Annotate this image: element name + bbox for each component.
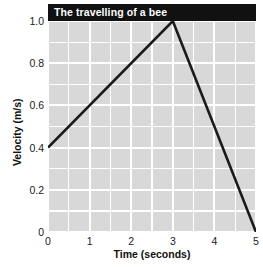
x-tick-label: 2 bbox=[128, 236, 134, 247]
x-axis-title: Time (seconds) bbox=[48, 249, 256, 260]
x-tick-label: 4 bbox=[211, 236, 217, 247]
data-series-velocity bbox=[48, 21, 256, 232]
x-tick-label: 0 bbox=[45, 236, 51, 247]
plot-area bbox=[48, 21, 256, 232]
y-tick-label: 0.8 bbox=[4, 58, 48, 69]
chart-title: The travelling of a bee bbox=[48, 7, 167, 18]
y-axis-title: Velocity (m/s) bbox=[12, 74, 23, 190]
x-tick-label: 5 bbox=[253, 236, 259, 247]
y-axis-tick-labels: 00.20.40.60.81.0 bbox=[0, 0, 48, 267]
chart-figure: The travelling of a bee 00.20.40.60.81.0… bbox=[0, 0, 263, 267]
chart-title-banner: The travelling of a bee bbox=[48, 4, 256, 21]
x-tick-label: 1 bbox=[87, 236, 93, 247]
y-tick-label: 0.2 bbox=[4, 185, 48, 196]
x-tick-label: 3 bbox=[170, 236, 176, 247]
y-tick-label: 1.0 bbox=[4, 16, 48, 27]
